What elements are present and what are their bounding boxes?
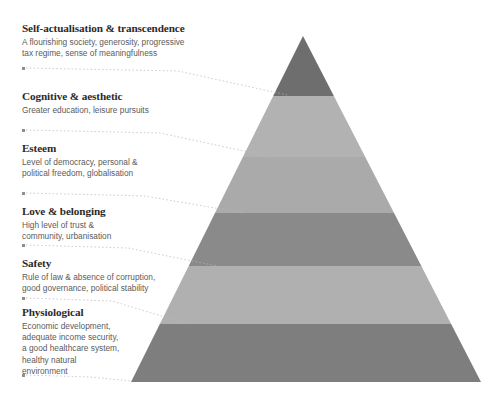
bullet-safety (22, 297, 25, 300)
level-label-self-actualisation: Self-actualisation & transcendence A flo… (22, 22, 185, 59)
level-label-physiological: Physiological Economic development, adeq… (22, 306, 119, 377)
level-title-physiological: Physiological (22, 306, 119, 319)
bullet-love-belonging (22, 244, 25, 247)
level-label-esteem: Esteem Level of democracy, personal & po… (22, 142, 138, 179)
level-title-esteem: Esteem (22, 142, 138, 155)
level-description-cognitive-aesthetic: Greater education, leisure pursuits (22, 105, 149, 116)
level-title-self-actualisation: Self-actualisation & transcendence (22, 22, 185, 35)
level-description-love-belonging: High level of trust & community, urbanis… (22, 220, 111, 242)
level-label-cognitive-aesthetic: Cognitive & aesthetic Greater education,… (22, 90, 149, 116)
bullet-self-actualisation (22, 67, 25, 70)
level-description-safety: Rule of law & absence of corruption, goo… (22, 272, 155, 294)
level-description-physiological: Economic development, adequate income se… (22, 321, 119, 377)
bullet-esteem (22, 192, 25, 195)
hierarchy-of-needs-diagram: Self-actualisation & transcendence A flo… (0, 0, 496, 399)
level-title-safety: Safety (22, 257, 155, 270)
level-title-cognitive-aesthetic: Cognitive & aesthetic (22, 90, 149, 103)
level-title-love-belonging: Love & belonging (22, 205, 111, 218)
bullet-cognitive-aesthetic (22, 129, 25, 132)
level-description-self-actualisation: A flourishing society, generosity, progr… (22, 37, 185, 59)
level-label-love-belonging: Love & belonging High level of trust & c… (22, 205, 111, 242)
level-label-safety: Safety Rule of law & absence of corrupti… (22, 257, 155, 294)
level-description-esteem: Level of democracy, personal & political… (22, 157, 138, 179)
